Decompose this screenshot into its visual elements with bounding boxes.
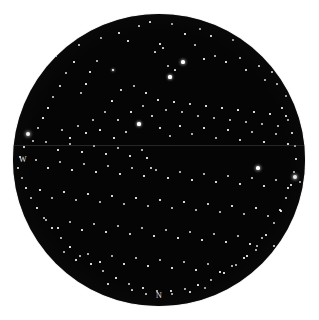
star-point — [171, 293, 172, 294]
star-point — [203, 127, 205, 129]
star-point — [142, 105, 143, 106]
star-point — [104, 111, 105, 112]
star-point — [229, 119, 230, 120]
star-point — [210, 279, 211, 280]
star-point — [169, 135, 170, 136]
star-point — [253, 111, 255, 113]
star-point — [30, 197, 31, 198]
star-point — [52, 96, 53, 97]
star-point — [210, 35, 212, 37]
star-point — [83, 163, 84, 164]
star-point — [183, 261, 184, 262]
star-point — [69, 221, 70, 222]
star-point — [123, 203, 124, 204]
star-point — [117, 225, 118, 226]
star-point — [135, 257, 136, 258]
star-point — [119, 173, 121, 175]
star-point — [197, 115, 198, 116]
star-point — [111, 195, 113, 197]
star-point — [203, 173, 204, 174]
star-point — [159, 259, 160, 260]
star-point — [239, 139, 241, 141]
star-point — [89, 71, 91, 73]
star-point — [117, 119, 119, 121]
star-point — [261, 237, 262, 238]
star-point — [189, 291, 191, 293]
star-point — [131, 167, 132, 168]
star-point — [256, 166, 260, 170]
star-point — [189, 231, 190, 232]
star-point — [107, 283, 109, 285]
star-point — [219, 211, 220, 212]
star-point — [123, 263, 125, 265]
star-point — [145, 293, 146, 294]
star-point — [249, 243, 251, 245]
star-point — [75, 199, 76, 200]
star-point — [251, 131, 252, 132]
star-point — [93, 223, 94, 224]
star-point — [107, 165, 108, 166]
star-point — [35, 159, 36, 160]
star-point — [191, 179, 193, 181]
star-point — [59, 161, 60, 162]
star-point — [239, 183, 241, 185]
star-point — [69, 137, 71, 139]
star-point — [117, 147, 118, 148]
star-point — [294, 145, 295, 146]
star-point — [154, 51, 155, 52]
star-point — [261, 123, 262, 124]
star-point — [21, 177, 22, 178]
star-point — [213, 233, 214, 234]
star-point — [135, 197, 137, 199]
star-point — [118, 32, 120, 34]
star-point — [194, 44, 195, 45]
star-point — [215, 181, 217, 183]
star-point — [245, 69, 247, 71]
star-point — [157, 99, 159, 101]
star-plate-image: W N — [0, 0, 319, 320]
star-point — [93, 145, 94, 146]
star-point — [17, 167, 19, 169]
star-point — [171, 207, 172, 208]
star-point — [299, 181, 300, 182]
star-point — [252, 45, 254, 47]
star-point — [153, 235, 155, 237]
star-point — [179, 125, 181, 127]
star-point — [81, 229, 83, 231]
star-point — [264, 79, 265, 80]
star-point — [111, 255, 112, 256]
star-point — [213, 117, 214, 118]
sky-field-disc — [13, 14, 305, 306]
star-point — [273, 245, 275, 247]
star-point — [219, 271, 221, 273]
star-point — [129, 233, 131, 235]
star-point — [87, 253, 88, 254]
star-point — [39, 189, 41, 191]
star-point — [120, 89, 122, 91]
star-point — [287, 143, 289, 145]
star-point — [65, 72, 66, 73]
star-point — [159, 127, 161, 129]
star-point — [105, 153, 107, 155]
star-point — [227, 129, 229, 131]
star-point — [96, 60, 97, 61]
star-point — [197, 284, 199, 286]
star-point — [168, 75, 171, 78]
star-point — [128, 283, 129, 284]
star-point — [142, 287, 144, 289]
star-point — [269, 113, 271, 115]
star-point — [195, 269, 197, 271]
star-point — [75, 259, 77, 261]
star-point — [231, 265, 232, 266]
star-point — [59, 46, 60, 47]
star-point — [79, 255, 80, 256]
star-point — [146, 157, 148, 159]
star-point — [99, 201, 100, 202]
star-point — [251, 177, 252, 178]
star-point — [113, 137, 115, 139]
star-point — [81, 151, 83, 153]
star-point — [159, 43, 161, 45]
star-point — [207, 263, 208, 264]
star-point — [195, 209, 196, 210]
star-point — [147, 265, 149, 267]
